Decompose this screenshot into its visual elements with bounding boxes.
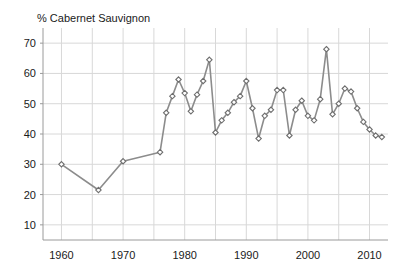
chart-title: % Cabernet Sauvignon	[37, 12, 150, 24]
y-tick-label: 10	[24, 219, 36, 231]
y-tick-label: 30	[24, 158, 36, 170]
x-tick-label: 1990	[234, 249, 258, 261]
chart-container: 10203040506070 196019701980199020002010 …	[0, 0, 400, 276]
x-tick-label: 2000	[296, 249, 320, 261]
x-tick-label: 1960	[49, 249, 73, 261]
x-tick-label: 2010	[357, 249, 381, 261]
chart-background	[0, 0, 400, 276]
y-tick-label: 40	[24, 128, 36, 140]
x-tick-label: 1980	[172, 249, 196, 261]
y-tick-label: 20	[24, 189, 36, 201]
y-tick-label: 70	[24, 37, 36, 49]
x-tick-label: 1970	[111, 249, 135, 261]
y-tick-label: 50	[24, 98, 36, 110]
line-chart: 10203040506070 196019701980199020002010 …	[0, 0, 400, 276]
y-tick-label: 60	[24, 67, 36, 79]
